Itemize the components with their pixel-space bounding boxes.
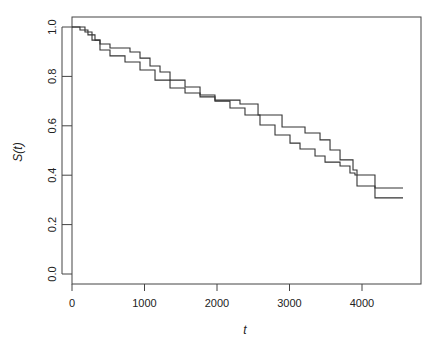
y-tick-label: 0.4 xyxy=(46,168,58,183)
series-layer xyxy=(72,27,403,198)
x-tick-label: 4000 xyxy=(350,297,374,309)
x-axis: 01000200030004000 xyxy=(69,284,374,309)
plot-frame xyxy=(72,17,421,284)
survival-curve-curve-2 xyxy=(72,27,403,198)
x-axis-label: t xyxy=(243,323,247,337)
y-axis: 0.00.20.40.60.81.0 xyxy=(46,19,72,281)
x-tick-label: 3000 xyxy=(277,297,301,309)
survival-chart: 0.00.20.40.60.81.0 01000200030004000 S(t… xyxy=(0,0,432,349)
y-tick-label: 0.2 xyxy=(46,217,58,232)
x-tick-label: 2000 xyxy=(205,297,229,309)
y-tick-label: 1.0 xyxy=(46,19,58,34)
x-tick-label: 0 xyxy=(69,297,75,309)
y-tick-label: 0.8 xyxy=(46,69,58,84)
y-tick-label: 0.6 xyxy=(46,118,58,133)
y-tick-label: 0.0 xyxy=(46,266,58,281)
x-tick-label: 1000 xyxy=(132,297,156,309)
y-axis-label: S(t) xyxy=(11,142,25,161)
